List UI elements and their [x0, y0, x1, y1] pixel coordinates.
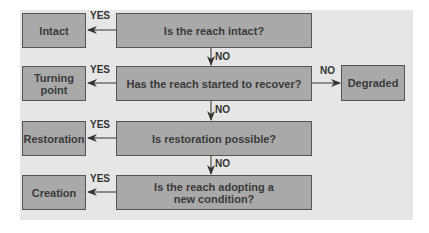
question-restoration: Is restoration possible? [116, 121, 312, 156]
no-label-3: NO [215, 158, 230, 169]
no-label-1: NO [215, 51, 230, 62]
question-new-condition: Is the reach adopting a new condition? [116, 175, 312, 210]
outcome-restoration-label: Restoration [23, 133, 84, 145]
yes-label-3: YES [90, 119, 110, 130]
outcome-degraded: Degraded [341, 65, 405, 101]
no-label-2: NO [215, 104, 230, 115]
outcome-restoration: Restoration [22, 121, 86, 156]
question-restoration-text: Is restoration possible? [152, 133, 276, 145]
question-new-condition-text: Is the reach adopting a new condition? [149, 181, 279, 205]
outcome-intact-label: Intact [39, 25, 68, 37]
question-recover-text: Has the reach started to recover? [127, 78, 302, 90]
question-intact-text: Is the reach intact? [164, 25, 264, 37]
outcome-degraded-label: Degraded [348, 77, 399, 89]
outcome-turning-point-label: Turning point [32, 72, 76, 96]
question-intact: Is the reach intact? [116, 13, 312, 48]
yes-label-1: YES [90, 10, 110, 21]
question-recover: Has the reach started to recover? [116, 66, 312, 101]
yes-label-4: YES [90, 173, 110, 184]
yes-label-2: YES [90, 64, 110, 75]
outcome-intact: Intact [22, 13, 86, 48]
outcome-creation: Creation [22, 175, 86, 210]
no-label-degraded: NO [320, 65, 335, 76]
outcome-creation-label: Creation [32, 187, 77, 199]
outcome-turning-point: Turning point [22, 66, 86, 101]
